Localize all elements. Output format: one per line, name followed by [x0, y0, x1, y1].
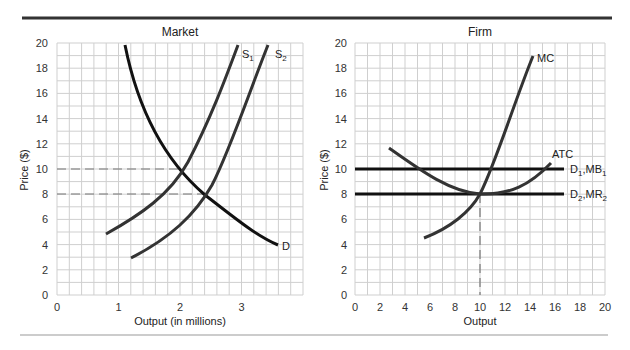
x-tick-label: 4: [402, 301, 408, 313]
label-mc: MC: [537, 52, 554, 64]
y-tick-label: 2: [341, 264, 347, 276]
x-tick-label: 6: [427, 301, 433, 313]
market-x-ticks: 0123: [54, 301, 245, 313]
y-tick-label: 2: [42, 264, 48, 276]
label-atc: ATC: [552, 148, 573, 160]
x-tick-label: 12: [499, 301, 511, 313]
x-tick-label: 20: [599, 301, 611, 313]
firm-title: Firm: [468, 25, 492, 39]
y-tick-label: 14: [335, 113, 347, 125]
y-tick-label: 4: [341, 239, 347, 251]
y-tick-label: 4: [42, 239, 48, 251]
x-tick-label: 0: [352, 301, 358, 313]
label-d1-mr1: D1,MB1: [570, 163, 607, 178]
firm-y-label: Price ($): [318, 149, 330, 191]
x-tick-label: 10: [474, 301, 486, 313]
x-tick-label: 1: [115, 301, 121, 313]
y-tick-label: 12: [36, 138, 48, 150]
y-tick-label: 18: [36, 62, 48, 74]
label-d: D: [282, 240, 290, 252]
label-s1: S1: [242, 48, 254, 63]
y-tick-label: 20: [335, 37, 347, 49]
y-tick-label: 6: [42, 213, 48, 225]
figure: Market 02468101214161820 0123 Output (in…: [0, 0, 630, 350]
atc-curve: [389, 148, 551, 194]
y-tick-label: 10: [36, 163, 48, 175]
x-tick-label: 3: [238, 301, 244, 313]
y-tick-label: 0: [42, 289, 48, 301]
label-d2-mr2: D2,MR2: [570, 188, 608, 203]
label-s2: S2: [275, 48, 287, 63]
x-tick-label: 0: [54, 301, 60, 313]
market-x-label: Output (in millions): [134, 315, 226, 327]
firm-chart: Firm 02468101214161820 02468101214161820…: [318, 25, 611, 327]
market-title: Market: [162, 25, 199, 39]
x-tick-label: 18: [574, 301, 586, 313]
y-tick-label: 0: [341, 289, 347, 301]
y-tick-label: 6: [341, 213, 347, 225]
y-tick-label: 14: [36, 113, 48, 125]
x-tick-label: 2: [377, 301, 383, 313]
market-chart: Market 02468101214161820 0123 Output (in…: [18, 25, 303, 327]
y-tick-label: 10: [335, 163, 347, 175]
mc-curve: [424, 56, 533, 238]
y-tick-label: 8: [42, 188, 48, 200]
firm-y-ticks: 02468101214161820: [335, 37, 347, 301]
market-y-ticks: 02468101214161820: [36, 37, 48, 301]
y-tick-label: 18: [335, 62, 347, 74]
y-tick-label: 20: [36, 37, 48, 49]
x-tick-label: 14: [524, 301, 536, 313]
x-tick-label: 8: [452, 301, 458, 313]
firm-x-ticks: 02468101214161820: [352, 301, 611, 313]
y-tick-label: 12: [335, 138, 347, 150]
y-tick-label: 16: [335, 87, 347, 99]
y-tick-label: 16: [36, 87, 48, 99]
market-y-label: Price ($): [18, 149, 30, 191]
y-tick-label: 8: [341, 188, 347, 200]
x-tick-label: 16: [549, 301, 561, 313]
firm-x-label: Output: [463, 315, 496, 327]
x-tick-label: 2: [177, 301, 183, 313]
